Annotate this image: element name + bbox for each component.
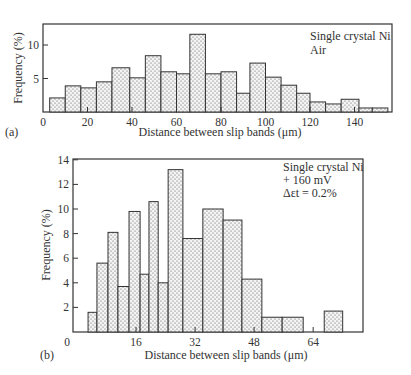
histogram-bar [88,312,97,332]
histogram-bar [112,68,130,112]
histogram-bar [237,93,250,112]
y-tick-label: 10 [58,203,70,215]
x-axis-label-a: Distance between slip bands (μm) [138,125,301,139]
histogram-bar [161,72,177,112]
histogram-bar [310,102,326,112]
x-tick-label: 40 [126,116,138,128]
y-tick-label: 5 [33,73,39,85]
annotation-b-line3: Δεt = 0.2% [283,186,337,200]
histogram-bar [205,74,221,112]
histogram-bar [177,74,190,112]
y-axis-a: 510 [28,39,49,85]
x-tick-label: 120 [301,116,319,128]
histogram-bar [282,317,303,332]
histogram-bar [130,78,146,112]
y-tick-label: 10 [28,39,40,51]
x-tick-label: 32 [189,336,201,348]
histogram-bar [326,104,342,112]
histogram-bar [96,82,112,112]
histogram-bar [140,274,149,332]
x-tick-label: 20 [82,116,94,128]
x-tick-label: 0 [64,336,70,348]
x-tick-label: 48 [248,336,260,348]
histogram-bar [118,286,129,332]
annotation-a-line2: Air [310,43,326,57]
x-tick-label: 16 [130,336,142,348]
panel-label-a: (a) [5,125,18,139]
histogram-panel-b: 2468101214 016324864 Frequency (%) Dista… [39,154,364,362]
y-tick-label: 6 [63,252,69,264]
y-tick-label: 12 [58,178,70,190]
histogram-bar [359,108,372,112]
histogram-bar [158,283,168,332]
histogram-bar [183,239,203,332]
histogram-bar [266,77,282,112]
annotation-b-line1: Single crystal Ni [283,160,364,174]
histogram-bar [65,86,81,112]
histogram-bar [262,317,282,332]
histogram-bar [242,279,262,332]
x-tick-label: 140 [346,116,364,128]
y-tick-label: 8 [63,228,69,240]
histogram-bar [297,93,310,112]
histogram-bar [281,85,297,112]
x-tick-label: 64 [307,336,319,348]
y-tick-label: 4 [63,277,69,289]
bars-a [50,34,388,112]
histogram-bar [203,209,223,332]
y-axis-label-a: Frequency (%) [11,32,25,104]
y-tick-label: 2 [63,301,69,313]
y-tick-label: 14 [58,154,70,166]
figure: 510 020406080100120140 Frequency (%) Dis… [0,0,411,375]
histogram-bar [190,34,206,112]
x-tick-label: 0 [40,116,46,128]
histogram-bar [97,263,108,332]
histogram-bar [324,311,342,332]
histogram-bar [129,211,140,332]
histogram-bar [168,170,183,332]
histogram-bar [221,72,237,112]
histogram-panel-a: 510 020406080100120140 Frequency (%) Dis… [5,24,392,139]
histogram-bar [145,56,161,112]
histogram-bar [250,63,266,112]
histogram-bar [341,99,359,112]
histogram-bar [50,98,66,112]
histogram-bar [108,232,118,332]
histogram-bar [81,88,97,112]
histogram-bar [372,108,388,112]
y-axis-label-b: Frequency (%) [39,209,53,281]
histogram-bar [223,220,242,332]
annotation-b-line2: + 160 mV [283,173,332,187]
histogram-bar [149,202,158,332]
x-axis-label-b: Distance between slip bands (μm) [144,348,307,362]
annotation-a-line1: Single crystal Ni [310,29,391,43]
panel-label-b: (b) [40,348,54,362]
y-axis-b: 2468101214 [58,154,79,314]
